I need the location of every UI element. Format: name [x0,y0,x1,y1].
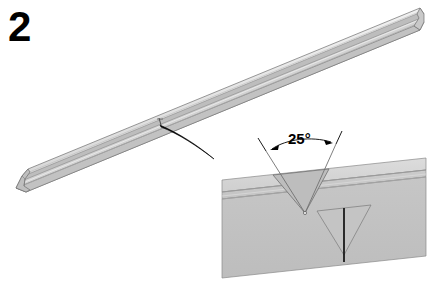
angle-extension-line-left [258,138,266,151]
rail-shading-band-1 [25,20,419,182]
curved-leader-arrow [160,125,214,159]
rail-assembly [16,8,424,192]
angle-dimension-label: 25° [288,131,311,146]
technical-illustration [0,0,433,288]
leader-arrow-group [160,125,214,159]
rail-inner-groove [24,13,421,180]
angle-arrowhead-right [324,140,333,145]
rail-shading-band-2 [23,24,418,186]
step-number-label: 2 [8,6,30,48]
v-notch-apex-point [303,211,306,214]
angle-extension-line-right [336,131,342,144]
illustration-canvas: 2 25° [0,0,433,288]
rail-shading-band-3 [27,12,420,174]
